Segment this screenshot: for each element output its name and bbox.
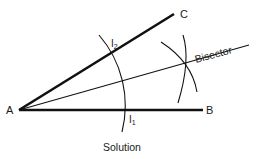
angle-bisector-diagram: A B C I2 I1 Bisector Solution (0, 0, 256, 159)
label-i1: I1 (129, 114, 136, 126)
label-bisector: Bisector (193, 43, 233, 65)
label-solution: Solution (103, 141, 141, 153)
label-i1-sub: 1 (132, 119, 136, 126)
label-a: A (6, 104, 14, 116)
ray-ac (19, 14, 174, 110)
label-i2-sub: 2 (114, 43, 118, 50)
arc-from-i1 (178, 35, 186, 103)
label-c: C (180, 8, 188, 20)
label-i2: I2 (111, 38, 118, 50)
arc-from-i2 (161, 42, 197, 92)
label-b: B (206, 104, 213, 116)
